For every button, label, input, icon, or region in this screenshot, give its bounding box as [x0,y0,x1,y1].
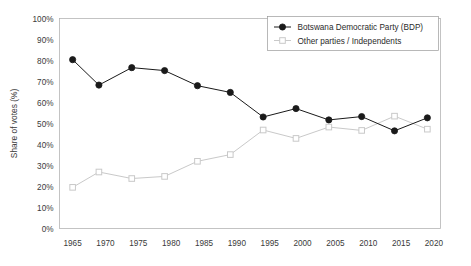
x-tick-label: 1990 [228,239,247,248]
x-tick-label: 2010 [359,239,378,248]
data-point-marker [293,136,299,142]
chart-legend: Botswana Democratic Party (BDP)Other par… [268,17,439,51]
data-point-marker [227,89,233,95]
y-tick-label: 40% [37,141,53,150]
data-point-marker [129,65,135,71]
x-tick-label: 1995 [261,239,280,248]
legend-item-label: Botswana Democratic Party (BDP) [298,23,424,32]
data-point-marker [359,128,365,134]
data-point-marker [96,169,102,175]
data-point-marker [293,105,299,111]
data-point-marker [70,185,76,191]
x-tick-label: 2020 [425,239,444,248]
x-tick-label: 2000 [293,239,312,248]
y-tick-label: 60% [37,99,53,108]
x-tick-label: 1980 [162,239,181,248]
data-point-marker [162,174,168,180]
data-point-marker [359,113,365,119]
chart-container: 0%10%20%30%40%50%60%70%80%90%100% 196519… [0,0,471,266]
data-point-marker [260,127,266,133]
data-point-marker [162,67,168,73]
x-tick-label: 1965 [64,239,83,248]
data-point-marker [195,159,201,165]
y-tick-label: 100% [33,15,54,24]
y-tick-label: 30% [37,162,53,171]
x-tick-label: 1970 [96,239,115,248]
x-tick-label: 1975 [129,239,148,248]
data-point-marker [129,176,135,182]
legend-item-label: Other parties / Independents [298,37,402,46]
data-point-marker [326,117,332,123]
y-tick-label: 10% [37,204,53,213]
y-tick-label: 50% [37,120,53,129]
data-point-marker [96,82,102,88]
data-point-marker [425,126,431,132]
data-point-marker [392,113,398,119]
y-tick-label: 0% [42,225,54,234]
data-point-marker [260,114,266,120]
data-point-marker [280,38,286,44]
data-point-marker [279,24,285,30]
y-axis-title: Share of votes (%) [9,89,19,159]
data-point-marker [326,124,332,130]
x-tick-label: 2005 [326,239,345,248]
data-point-marker [391,128,397,134]
vote-share-line-chart: 0%10%20%30%40%50%60%70%80%90%100% 196519… [0,0,471,266]
y-tick-label: 80% [37,57,53,66]
x-tick-label: 1985 [195,239,214,248]
data-point-marker [70,57,76,63]
y-tick-label: 70% [37,78,53,87]
data-point-marker [194,83,200,89]
y-tick-label: 20% [37,183,53,192]
y-tick-label: 90% [37,36,53,45]
x-tick-label: 2015 [392,239,411,248]
data-point-marker [424,115,430,121]
data-point-marker [227,152,233,158]
